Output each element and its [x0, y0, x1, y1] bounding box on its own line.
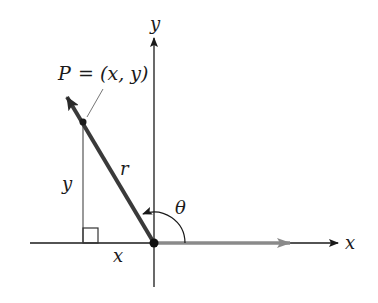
y-axis-label: y [149, 13, 161, 34]
point-p-dot [80, 119, 87, 126]
angle-label-theta: θ [175, 197, 186, 218]
x-axis-label: x [345, 232, 355, 253]
vertical-leg-label-y: y [61, 173, 73, 194]
point-p-equals: = [78, 62, 94, 84]
right-angle-marker [83, 228, 98, 243]
point-p-name: P [57, 62, 72, 84]
polar-angle-diagram: y x P = (x, y) r y x θ [0, 0, 378, 303]
point-p-coords: (x, y) [100, 62, 148, 84]
origin-dot [150, 239, 159, 248]
hypotenuse-label-r: r [120, 158, 130, 179]
point-p-leader [87, 89, 103, 117]
r-vector [67, 97, 154, 243]
horizontal-leg-label-x: x [113, 245, 123, 266]
